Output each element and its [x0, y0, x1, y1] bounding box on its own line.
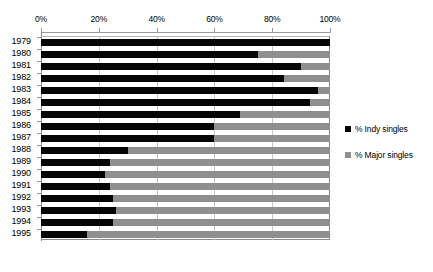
- x-tick-label-20: 20%: [91, 14, 107, 24]
- bar-segment-major: [110, 183, 330, 190]
- bar-segment-major: [214, 123, 330, 130]
- legend-swatch-icon-major: [345, 152, 351, 158]
- bar-row: [41, 63, 329, 70]
- bar-segment-indy: [41, 171, 105, 178]
- x-tick-label-0: 0%: [35, 14, 47, 24]
- bar-segment-indy: [41, 183, 110, 190]
- chart-legend: % Indy singles % Major singles: [345, 124, 433, 176]
- y-axis-tick-mark: [37, 73, 41, 74]
- x-axis-tick-labels: 0%20%40%60%80%100%: [41, 14, 330, 28]
- bar-segment-indy: [41, 87, 318, 94]
- y-tick-label-1987: 1987: [11, 132, 31, 142]
- y-axis-tick-mark: [37, 133, 41, 134]
- bar-row: [41, 99, 329, 106]
- y-axis-tick-mark: [37, 145, 41, 146]
- y-axis-tick-mark: [37, 157, 41, 158]
- legend-swatch-icon-indy: [345, 126, 351, 132]
- bar-segment-major: [105, 171, 330, 178]
- y-tick-label-1993: 1993: [11, 204, 31, 214]
- y-axis-tick-mark: [37, 121, 41, 122]
- bar-row: [41, 231, 329, 238]
- bar-row: [41, 147, 329, 154]
- y-axis-tick-mark: [37, 61, 41, 62]
- y-axis-tick-mark: [37, 217, 41, 218]
- legend-item-indy-singles: % Indy singles: [345, 124, 433, 134]
- bar-segment-major: [240, 111, 330, 118]
- bar-segment-major: [116, 207, 330, 214]
- bar-row: [41, 39, 329, 46]
- y-axis-tick-mark: [37, 169, 41, 170]
- bar-segment-major: [214, 135, 330, 142]
- bar-row: [41, 87, 329, 94]
- plot-area: [41, 36, 330, 240]
- legend-item-major-singles: % Major singles: [345, 150, 433, 160]
- bar-segment-major: [113, 219, 330, 226]
- bar-segment-major: [318, 87, 330, 94]
- bar-segment-major: [310, 99, 330, 106]
- bar-segment-indy: [41, 51, 258, 58]
- bar-row: [41, 183, 329, 190]
- plot-bottom-edge: [41, 239, 329, 240]
- x-tick-label-40: 40%: [148, 14, 164, 24]
- bar-row: [41, 171, 329, 178]
- bar-segment-indy: [41, 75, 284, 82]
- y-tick-label-1990: 1990: [11, 168, 31, 178]
- x-tick-label-60: 60%: [206, 14, 222, 24]
- y-axis-tick-mark: [37, 193, 41, 194]
- bar-row: [41, 135, 329, 142]
- y-tick-label-1981: 1981: [11, 60, 31, 70]
- bar-segment-major: [128, 147, 330, 154]
- x-axis-tick-mark: [330, 28, 331, 33]
- bar-row: [41, 51, 329, 58]
- plot-top-edge: [41, 36, 329, 37]
- y-axis-tick-mark: [37, 85, 41, 86]
- y-tick-label-1988: 1988: [11, 144, 31, 154]
- bar-segment-indy: [41, 219, 113, 226]
- x-tick-label-100: 100%: [320, 14, 341, 24]
- bar-row: [41, 123, 329, 130]
- bar-segment-major: [284, 75, 330, 82]
- bar-segment-major: [87, 231, 330, 238]
- bar-segment-major: [110, 159, 330, 166]
- x-axis-tick-mark: [214, 28, 215, 33]
- y-axis-tick-mark: [37, 229, 41, 230]
- bar-row: [41, 219, 329, 226]
- y-tick-label-1982: 1982: [11, 72, 31, 82]
- bar-segment-indy: [41, 63, 301, 70]
- y-tick-label-1986: 1986: [11, 120, 31, 130]
- bar-segment-major: [113, 195, 330, 202]
- bar-row: [41, 75, 329, 82]
- y-tick-label-1985: 1985: [11, 108, 31, 118]
- y-axis-tick-mark: [37, 205, 41, 206]
- bar-segment-indy: [41, 207, 116, 214]
- bar-segment-indy: [41, 231, 87, 238]
- bar-row: [41, 159, 329, 166]
- y-tick-label-1994: 1994: [11, 216, 31, 226]
- stacked-bar-chart: 0%20%40%60%80%100% 197919801981198219831…: [0, 0, 433, 272]
- bar-segment-indy: [41, 111, 240, 118]
- legend-label-major: % Major singles: [355, 150, 413, 160]
- y-axis-tick-mark: [37, 37, 41, 38]
- bar-row: [41, 207, 329, 214]
- y-tick-label-1992: 1992: [11, 192, 31, 202]
- y-axis-tick-mark: [37, 181, 41, 182]
- bar-segment-indy: [41, 195, 113, 202]
- x-tick-label-80: 80%: [264, 14, 280, 24]
- y-tick-label-1983: 1983: [11, 84, 31, 94]
- y-tick-label-1991: 1991: [11, 180, 31, 190]
- y-axis-tick-mark: [37, 109, 41, 110]
- y-tick-label-1979: 1979: [11, 36, 31, 46]
- y-axis-tick-mark: [37, 49, 41, 50]
- y-axis-category-labels: 1979198019811982198319841985198619871988…: [0, 36, 38, 240]
- bar-segment-major: [301, 63, 330, 70]
- y-tick-label-1989: 1989: [11, 156, 31, 166]
- x-axis-tick-mark: [272, 28, 273, 33]
- bar-segment-indy: [41, 135, 214, 142]
- x-axis-line: [41, 32, 330, 33]
- bar-segment-indy: [41, 123, 214, 130]
- y-tick-label-1995: 1995: [11, 228, 31, 238]
- y-tick-label-1984: 1984: [11, 96, 31, 106]
- bar-row: [41, 195, 329, 202]
- bar-segment-indy: [41, 159, 110, 166]
- legend-label-indy: % Indy singles: [355, 124, 408, 134]
